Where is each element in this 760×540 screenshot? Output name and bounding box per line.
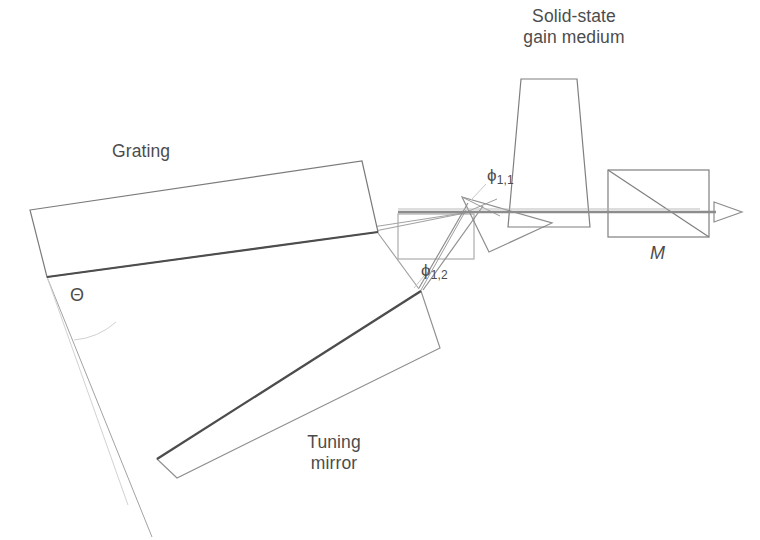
theta-reference-line bbox=[47, 277, 152, 537]
tuning-mirror-label-line1: Tuning bbox=[282, 432, 386, 453]
grating-label: Grating bbox=[112, 141, 170, 162]
output-mirror-diagonal bbox=[608, 170, 709, 237]
theta-arc bbox=[74, 322, 116, 340]
theta-guide-line bbox=[47, 277, 128, 505]
output-mirror-label: M bbox=[650, 243, 665, 264]
phi-1-2-label: ϕ1,2 bbox=[421, 261, 448, 283]
phi-1-2-symbol: ϕ bbox=[421, 261, 431, 280]
prism bbox=[462, 197, 552, 252]
grating-upper-beam bbox=[365, 212, 470, 233]
phi-1-1-label: ϕ1,1 bbox=[487, 166, 514, 188]
gain-medium-label-line1: Solid-state bbox=[489, 6, 659, 27]
phi-1-2-subscript: 1,2 bbox=[431, 268, 448, 282]
tuning-mirror-label: Tuning mirror bbox=[282, 432, 386, 473]
phi-1-1-symbol: ϕ bbox=[487, 166, 497, 185]
output-beam-arrow-icon bbox=[714, 202, 742, 222]
theta-angle-label: Θ bbox=[70, 285, 84, 306]
grating-component bbox=[30, 161, 378, 277]
output-mirror-component bbox=[608, 170, 709, 237]
tuning-mirror-label-line2: mirror bbox=[282, 453, 386, 474]
beam-expander-box bbox=[398, 214, 474, 259]
theta-angle-group bbox=[47, 277, 152, 537]
gain-medium bbox=[508, 79, 590, 227]
phi-1-1-subscript: 1,1 bbox=[497, 173, 514, 187]
phi-1-1-leader-line bbox=[471, 184, 486, 200]
gain-medium-label-line2: gain medium bbox=[489, 27, 659, 48]
optical-diagram: Solid-state gain medium Grating Tuning m… bbox=[0, 0, 760, 540]
gain-medium-label: Solid-state gain medium bbox=[489, 6, 659, 47]
grating-body bbox=[30, 161, 378, 277]
